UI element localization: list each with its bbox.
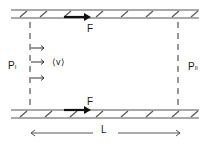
bottom-wall xyxy=(11,110,199,118)
pressure-right-label: PII xyxy=(188,62,198,73)
bottom-force-arrow xyxy=(64,106,91,114)
pressure-right-subscript: II xyxy=(195,65,198,71)
pressure-left-label: PI xyxy=(8,61,16,72)
top-wall xyxy=(11,10,199,18)
length-label: L xyxy=(101,125,107,135)
pressure-left-symbol: P xyxy=(8,60,15,71)
pressure-right-symbol: P xyxy=(188,61,195,72)
bottom-force-label: F xyxy=(87,97,93,107)
velocity-label: ⟨v⟩ xyxy=(52,57,65,67)
velocity-arrows xyxy=(31,46,44,81)
diagram-canvas xyxy=(0,0,210,144)
pressure-left-subscript: I xyxy=(15,64,17,70)
top-force-label: F xyxy=(87,24,93,34)
